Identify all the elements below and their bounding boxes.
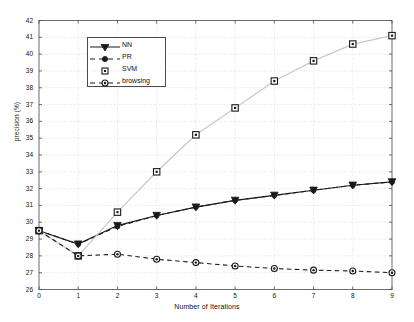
series-line-nn — [39, 182, 392, 244]
x-tick-9: 9 — [384, 292, 400, 299]
data-point — [154, 213, 159, 218]
data-point — [390, 179, 395, 184]
x-tick-7: 7 — [306, 292, 322, 299]
legend-label-svm: SVM — [122, 63, 137, 75]
legend-sample-svm — [88, 63, 122, 75]
data-point — [193, 205, 198, 210]
legend-sample-nn — [88, 39, 122, 51]
x-tick-3: 3 — [149, 292, 165, 299]
y-tick-39: 39 — [13, 67, 33, 74]
y-tick-32: 32 — [13, 185, 33, 192]
plot-canvas — [0, 0, 414, 322]
y-tick-40: 40 — [13, 50, 33, 57]
data-point — [271, 78, 277, 84]
data-point — [232, 105, 238, 111]
data-point — [233, 198, 238, 203]
chart-figure: 2627282930313233343536373839404142 01234… — [0, 0, 414, 322]
data-point — [350, 268, 356, 274]
legend-label-browsing: browsing — [122, 75, 150, 87]
data-point — [389, 32, 395, 38]
x-tick-4: 4 — [188, 292, 204, 299]
data-point — [75, 253, 81, 259]
y-tick-29: 29 — [13, 235, 33, 242]
data-point — [311, 267, 317, 273]
y-tick-31: 31 — [13, 201, 33, 208]
data-point — [115, 224, 120, 229]
legend-item-nn: NN — [88, 39, 167, 51]
data-point — [350, 41, 356, 47]
x-tick-8: 8 — [345, 292, 361, 299]
legend-sample-pr — [88, 51, 122, 63]
legend-sample-browsing — [88, 75, 122, 87]
data-point — [272, 193, 277, 198]
legend-label-nn: NN — [122, 39, 132, 51]
y-tick-28: 28 — [13, 252, 33, 259]
data-point — [232, 263, 238, 269]
y-tick-30: 30 — [13, 218, 33, 225]
y-axis-label: precision (%) — [13, 82, 20, 162]
data-point — [114, 251, 120, 257]
data-point — [193, 260, 199, 266]
y-tick-33: 33 — [13, 168, 33, 175]
series-line-browsing — [39, 231, 392, 273]
y-tick-26: 26 — [13, 286, 33, 293]
legend-item-browsing: browsing — [88, 75, 167, 87]
series-line-pr — [39, 182, 392, 244]
data-point — [154, 256, 160, 262]
y-tick-41: 41 — [13, 33, 33, 40]
data-point — [114, 209, 120, 215]
data-point — [350, 183, 355, 188]
x-tick-6: 6 — [266, 292, 282, 299]
data-point — [76, 242, 81, 247]
data-point — [311, 188, 316, 193]
data-point — [310, 58, 316, 64]
x-axis-label: Number of Iterations — [0, 303, 414, 310]
legend-item-pr: PR — [88, 51, 167, 63]
x-tick-1: 1 — [70, 292, 86, 299]
x-tick-0: 0 — [31, 292, 47, 299]
data-point — [193, 132, 199, 138]
legend: NN PR SVM — [87, 37, 166, 87]
y-tick-42: 42 — [13, 17, 33, 24]
x-tick-5: 5 — [227, 292, 243, 299]
data-point — [271, 265, 277, 271]
x-tick-2: 2 — [109, 292, 125, 299]
data-point — [36, 228, 42, 234]
data-point — [153, 169, 159, 175]
y-tick-27: 27 — [13, 269, 33, 276]
data-point — [389, 270, 395, 276]
legend-item-svm: SVM — [88, 63, 167, 75]
legend-label-pr: PR — [122, 51, 132, 63]
